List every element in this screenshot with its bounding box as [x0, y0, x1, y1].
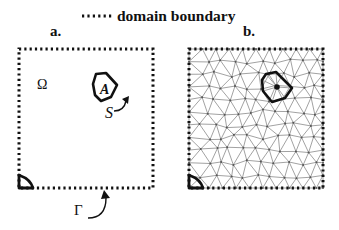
panel-a: Ω A S Γ: [19, 49, 153, 218]
domain-boundary-meshed: [189, 49, 323, 188]
corner-notch: [19, 175, 33, 188]
region-a-label: A: [99, 82, 109, 97]
boundary-arrow-icon: [88, 198, 106, 218]
domain-omega-label: Ω: [37, 77, 47, 92]
triangular-mesh: [188, 48, 324, 189]
panel-b: [188, 48, 324, 189]
domain-diagram: domain boundary a. b. Ω A S Γ: [0, 0, 339, 230]
boundary-arrowhead-icon: [101, 190, 110, 199]
legend: domain boundary: [82, 7, 236, 24]
surface-arrow-icon: [114, 101, 126, 111]
surface-s-label: S: [105, 104, 113, 121]
panel-a-label: a.: [50, 23, 62, 39]
domain-boundary: [19, 49, 153, 188]
boundary-gamma-label: Γ: [74, 202, 83, 218]
region-center-node: [274, 84, 280, 90]
legend-label: domain boundary: [117, 7, 236, 24]
panel-b-label: b.: [243, 23, 255, 39]
